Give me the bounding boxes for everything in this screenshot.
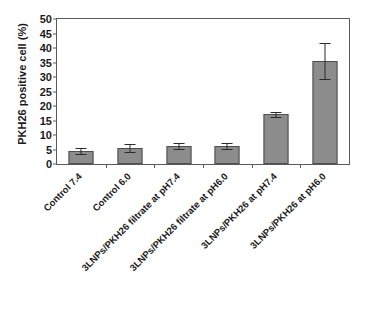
- error-bar: [324, 43, 325, 80]
- error-bar-cap: [222, 149, 233, 150]
- error-bar-cap: [173, 143, 184, 144]
- x-axis-tick-mark: [300, 164, 301, 168]
- x-axis-tick-mark: [154, 164, 155, 168]
- error-bar: [129, 144, 130, 152]
- error-bar-cap: [124, 152, 135, 153]
- x-axis-tick-mark: [106, 164, 107, 168]
- bar-group: [252, 19, 301, 164]
- error-bar-cap: [319, 79, 330, 80]
- error-bar-cap: [270, 112, 281, 113]
- error-bar-cap: [76, 154, 87, 155]
- error-bar-cap: [173, 149, 184, 150]
- bar-group: [154, 19, 203, 164]
- bar-group: [57, 19, 106, 164]
- error-bar-cap: [270, 117, 281, 118]
- y-axis-title: PKH26 positive cell (%): [16, 4, 28, 164]
- plot-area: 05101520253035404550: [56, 18, 350, 165]
- chart-figure: PKH26 positive cell (%) 0510152025303540…: [0, 0, 370, 309]
- x-axis-tick-mark: [252, 164, 253, 168]
- bar-group: [300, 19, 349, 164]
- error-bar-cap: [222, 143, 233, 144]
- error-bar-cap: [76, 148, 87, 149]
- x-axis-tick-mark: [203, 164, 204, 168]
- bar: [263, 114, 288, 164]
- bar-group: [106, 19, 155, 164]
- bar-group: [203, 19, 252, 164]
- error-bar-cap: [319, 43, 330, 44]
- error-bar-cap: [124, 144, 135, 145]
